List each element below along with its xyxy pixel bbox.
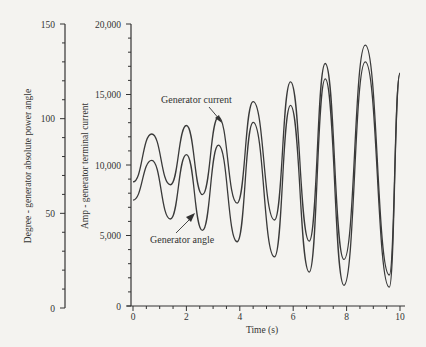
right-tick-15000: 15,000 xyxy=(95,90,121,100)
chart: 150 100 50 0 Degree - generator absolute… xyxy=(0,0,426,347)
right-tick-5000: 5,000 xyxy=(100,231,122,241)
left-tick-50: 50 xyxy=(46,209,56,219)
generator-angle-label: Generator angle xyxy=(150,234,215,245)
right-y-axis: 20,000 15,000 10,000 5,000 0 Amp - gener… xyxy=(80,20,131,312)
left-tick-0: 0 xyxy=(50,304,55,314)
x-tick-0: 0 xyxy=(131,312,136,322)
right-axis-title: Amp - generator terminal current xyxy=(80,103,90,229)
x-axis: 0 2 4 6 8 10 Time (s) xyxy=(127,306,405,336)
x-axis-title: Time (s) xyxy=(246,325,278,336)
x-tick-4: 4 xyxy=(237,312,242,322)
left-y-axis: 150 100 50 0 Degree - generator absolute… xyxy=(23,20,65,314)
right-tick-20000: 20,000 xyxy=(95,20,121,30)
arrow-head-icon xyxy=(186,213,195,222)
right-tick-10000: 10,000 xyxy=(95,161,121,171)
x-tick-6: 6 xyxy=(291,312,296,322)
left-axis-title: Degree - generator absolute power angle xyxy=(23,89,33,243)
left-tick-100: 100 xyxy=(41,114,56,124)
annotation-angle: Generator angle xyxy=(150,213,215,245)
x-tick-10: 10 xyxy=(395,312,405,322)
x-tick-2: 2 xyxy=(184,312,189,322)
x-tick-8: 8 xyxy=(344,312,349,322)
generator-current-label: Generator current xyxy=(161,94,232,105)
left-tick-150: 150 xyxy=(41,20,56,30)
annotation-current: Generator current xyxy=(161,94,232,123)
right-tick-0: 0 xyxy=(116,302,121,312)
